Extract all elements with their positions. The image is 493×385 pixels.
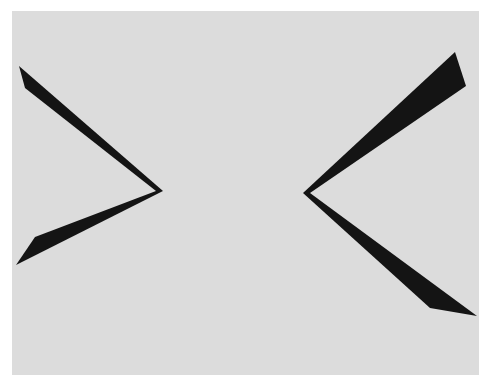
stage (0, 0, 493, 385)
left-chevron-lower-arm (16, 191, 163, 265)
right-chevron-upper-arm (303, 52, 466, 193)
right-chevron (303, 52, 477, 316)
right-chevron-lower-arm (303, 193, 477, 316)
left-chevron (16, 66, 163, 265)
chevron-figure (0, 0, 493, 385)
left-chevron-upper-arm (19, 66, 163, 191)
